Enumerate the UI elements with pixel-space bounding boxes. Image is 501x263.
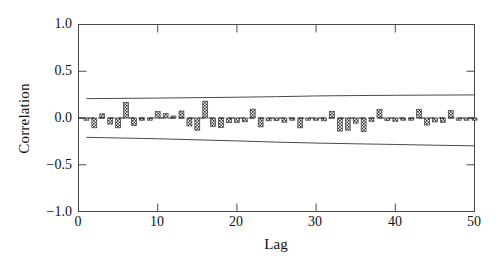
acf-bar bbox=[155, 112, 160, 118]
acf-bar bbox=[377, 110, 382, 118]
acf-bar bbox=[131, 118, 136, 125]
acf-bar bbox=[337, 118, 342, 131]
acf-bar bbox=[219, 118, 224, 127]
acf-bar bbox=[329, 111, 334, 118]
confidence-band-lower bbox=[86, 137, 474, 146]
acf-bar bbox=[282, 118, 287, 122]
acf-bar bbox=[432, 118, 437, 122]
acf-bar bbox=[353, 118, 358, 123]
acf-bars-group bbox=[84, 101, 477, 131]
acf-bar bbox=[195, 118, 200, 130]
acf-bar bbox=[464, 118, 469, 120]
acf-bar bbox=[179, 111, 184, 118]
acf-bar bbox=[440, 118, 445, 122]
acf-bar bbox=[116, 118, 121, 128]
acf-bar bbox=[274, 118, 279, 121]
acf-chart-figure: Correlation Lag 1.0 0.5 0.0 −0.5 −1.0 0 … bbox=[0, 0, 501, 263]
acf-bar bbox=[417, 109, 422, 118]
acf-bar bbox=[108, 118, 113, 124]
acf-bar bbox=[361, 118, 366, 132]
acf-bar bbox=[425, 118, 430, 125]
acf-bar bbox=[163, 114, 168, 118]
acf-bar bbox=[242, 118, 247, 122]
acf-bar bbox=[124, 103, 129, 118]
acf-bar bbox=[84, 118, 89, 120]
acf-bar bbox=[211, 118, 216, 126]
acf-bar bbox=[250, 109, 255, 118]
acf-bar bbox=[345, 118, 350, 130]
acf-bar bbox=[227, 118, 232, 123]
acf-bar bbox=[258, 118, 263, 127]
acf-bar bbox=[203, 101, 208, 118]
acf-bar bbox=[187, 118, 192, 126]
acf-bar bbox=[298, 118, 303, 128]
acf-bar bbox=[92, 118, 97, 128]
acf-bar bbox=[100, 114, 105, 118]
plot-canvas bbox=[0, 0, 501, 263]
acf-bar bbox=[234, 118, 239, 122]
confidence-band-upper bbox=[86, 95, 474, 99]
acf-bar bbox=[448, 110, 453, 118]
